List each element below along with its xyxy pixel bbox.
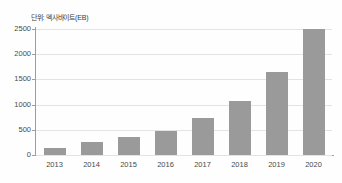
bar <box>118 137 140 155</box>
y-axis-tick-mark <box>32 29 35 30</box>
bar <box>303 29 325 155</box>
gridline <box>36 155 332 156</box>
y-axis-tick-label: 0 <box>27 151 31 159</box>
y-axis-tick-mark <box>32 105 35 106</box>
plot-area <box>36 29 332 155</box>
y-axis-tick-mark <box>32 79 35 80</box>
bar-chart-figure: 단위: 엑사바이트(EB) 05001000150020002500 20132… <box>0 0 342 183</box>
x-axis-tick-label: 2020 <box>295 160 332 169</box>
bar <box>192 118 214 155</box>
x-axis-tick-label: 2019 <box>258 160 295 169</box>
x-axis-tick-label: 2013 <box>36 160 73 169</box>
x-axis-tick-label: 2018 <box>221 160 258 169</box>
bar-slot <box>184 29 221 155</box>
bar-slot <box>258 29 295 155</box>
bar-slot <box>147 29 184 155</box>
x-axis-tick-labels: 20132014201520162017201820192020 <box>36 160 332 174</box>
y-axis-tick-label: 500 <box>18 126 31 134</box>
y-axis-tick-label: 2000 <box>14 50 31 58</box>
y-axis-tick-label: 1500 <box>14 75 31 83</box>
bar <box>229 101 251 155</box>
x-axis-tick-label: 2014 <box>73 160 110 169</box>
y-axis-tick-label: 1000 <box>14 101 31 109</box>
bar-slot <box>110 29 147 155</box>
y-axis-tick-label: 2500 <box>14 25 31 33</box>
bar <box>44 148 66 155</box>
bar-slot <box>221 29 258 155</box>
x-axis-tick-label: 2017 <box>184 160 221 169</box>
x-axis-tick-label: 2015 <box>110 160 147 169</box>
bar <box>266 72 288 155</box>
bar <box>155 131 177 155</box>
y-axis-tick-labels: 05001000150020002500 <box>0 0 31 183</box>
y-axis-tick-mark <box>32 130 35 131</box>
bar-slot <box>295 29 332 155</box>
y-axis-tick-mark <box>32 54 35 55</box>
x-axis-tick-label: 2016 <box>147 160 184 169</box>
bar-slot <box>36 29 73 155</box>
y-axis-tick-mark <box>32 155 35 156</box>
chart-unit-caption: 단위: 엑사바이트(EB) <box>31 13 88 22</box>
bar <box>81 142 103 155</box>
bar-slot <box>73 29 110 155</box>
